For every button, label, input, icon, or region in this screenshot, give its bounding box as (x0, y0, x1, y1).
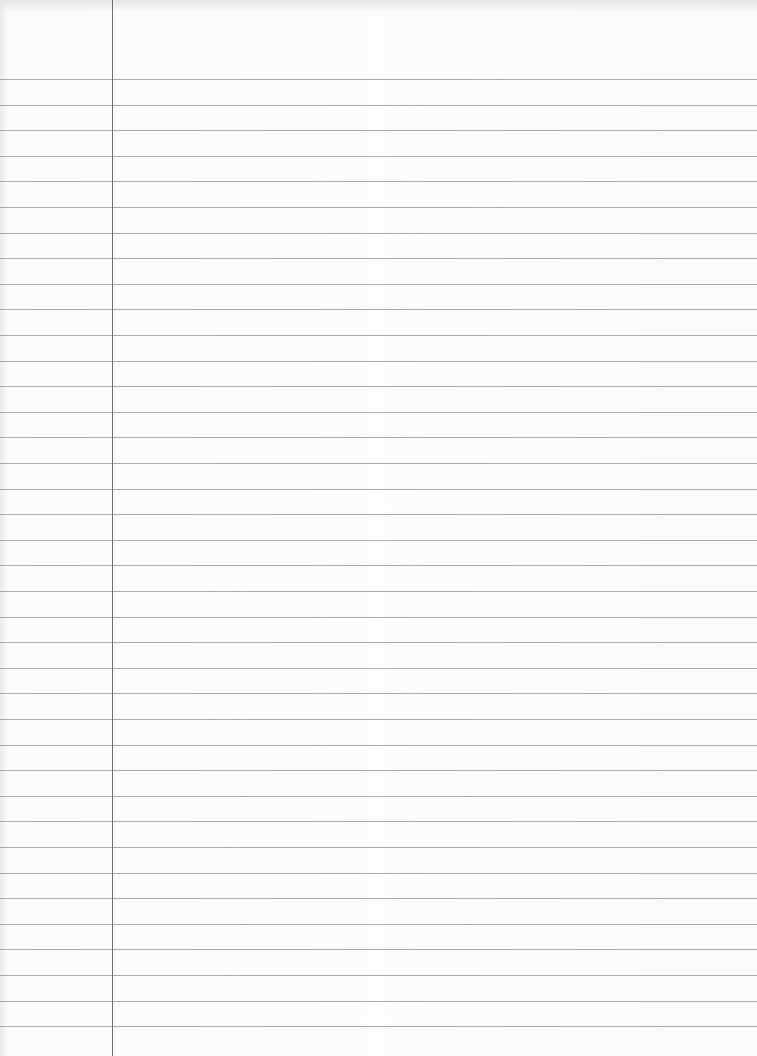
ruled-line (0, 335, 757, 336)
ruled-line (0, 1026, 757, 1027)
ruled-line (0, 284, 757, 285)
ruled-line (0, 693, 757, 694)
ruled-line (0, 105, 757, 106)
ruled-line (0, 540, 757, 541)
ruled-line (0, 975, 757, 976)
ruled-line (0, 233, 757, 234)
lined-paper (0, 0, 757, 1056)
ruled-line (0, 489, 757, 490)
ruled-line (0, 412, 757, 413)
ruled-line (0, 156, 757, 157)
ruled-line (0, 617, 757, 618)
margin-line (112, 0, 113, 1056)
ruled-line (0, 207, 757, 208)
ruled-line (0, 949, 757, 950)
ruled-line (0, 745, 757, 746)
ruled-line (0, 79, 757, 80)
ruled-line (0, 770, 757, 771)
ruled-line (0, 873, 757, 874)
ruled-line (0, 565, 757, 566)
ruled-line (0, 130, 757, 131)
ruled-line (0, 361, 757, 362)
ruled-line (0, 668, 757, 669)
ruled-line (0, 258, 757, 259)
ruled-line (0, 924, 757, 925)
ruled-line (0, 309, 757, 310)
ruled-line (0, 898, 757, 899)
ruled-line (0, 514, 757, 515)
ruled-line (0, 821, 757, 822)
ruled-line (0, 591, 757, 592)
ruled-line (0, 437, 757, 438)
ruled-line (0, 847, 757, 848)
ruled-line (0, 719, 757, 720)
ruled-line (0, 386, 757, 387)
ruled-line (0, 642, 757, 643)
ruled-line (0, 796, 757, 797)
ruled-line (0, 463, 757, 464)
ruled-line (0, 1001, 757, 1002)
top-edge-shadow (0, 0, 757, 12)
ruled-line (0, 181, 757, 182)
